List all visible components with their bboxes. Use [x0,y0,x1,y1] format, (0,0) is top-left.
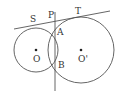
label-o-prime: O' [78,54,88,64]
center-o-prime-point [80,49,83,52]
label-s: S [30,14,36,24]
center-o-point [35,49,38,52]
label-t: T [75,6,81,16]
label-b: B [58,60,65,70]
label-p: P [48,10,54,20]
label-a: A [56,27,64,37]
geometry-diagram: S P T A B O O' [0,0,121,91]
label-o: O [33,54,40,64]
